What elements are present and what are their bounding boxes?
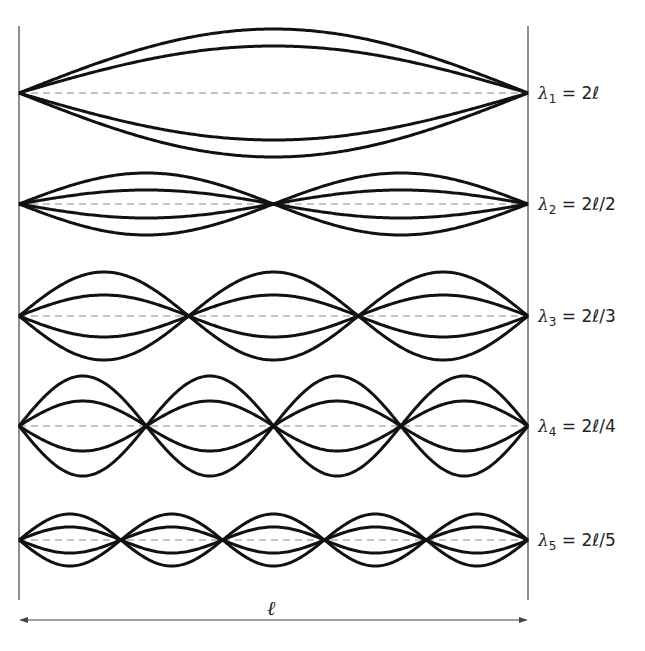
mode-label-1: λ1 = 2ℓ — [538, 83, 599, 106]
mode-2-wave-curve — [19, 190, 528, 204]
mode-2-wave-curve — [19, 204, 528, 218]
mode-5-wave-curve — [19, 540, 528, 553]
mode-1-wave-curve — [19, 29, 528, 93]
mode-1-wave-curve — [19, 93, 528, 157]
mode-3-wave-curve — [19, 316, 528, 337]
arrow-left-icon — [19, 617, 28, 623]
mode-2-wave-curve — [19, 173, 528, 204]
mode-5-wave-curve — [19, 527, 528, 540]
mode-4-wave-curve — [19, 401, 528, 426]
standing-wave-diagram: λ1 = 2ℓ λ2 = 2ℓ/2 λ3 = 2ℓ/3 λ4 = 2ℓ/4 λ5… — [0, 0, 645, 651]
mode-3-wave-curve — [19, 295, 528, 316]
mode-1-wave-curve — [19, 93, 528, 140]
mode-label-2: λ2 = 2ℓ/2 — [538, 194, 616, 217]
mode-label-5: λ5 = 2ℓ/5 — [538, 530, 616, 553]
mode-label-4: λ4 = 2ℓ/4 — [538, 416, 616, 439]
arrow-right-icon — [519, 617, 528, 623]
mode-2-wave-curve — [19, 204, 528, 235]
mode-1-wave-curve — [19, 46, 528, 93]
length-label: ℓ — [267, 596, 275, 620]
mode-4-wave-curve — [19, 426, 528, 451]
mode-label-3: λ3 = 2ℓ/3 — [538, 306, 616, 329]
